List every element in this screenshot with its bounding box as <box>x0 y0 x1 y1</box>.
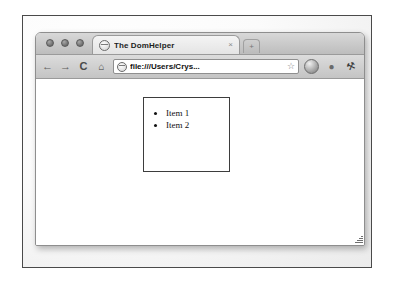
address-bar-url: file:///Users/Crys... <box>130 62 284 71</box>
tab-title: The DomHelper <box>114 41 222 50</box>
resize-grip[interactable] <box>354 235 363 244</box>
new-tab-button[interactable]: + <box>243 39 260 53</box>
figure-frame: The DomHelper × + ← → C ⌂ file:///Users/… <box>22 15 372 268</box>
globe-icon <box>99 40 110 51</box>
window-zoom-button[interactable] <box>76 39 84 47</box>
wrench-icon[interactable]: ⚒ <box>342 57 361 76</box>
back-arrow-icon[interactable]: ← <box>41 61 54 72</box>
globe-icon <box>117 62 127 72</box>
bookmark-star-icon[interactable]: ☆ <box>287 62 295 71</box>
forward-arrow-icon[interactable]: → <box>59 61 72 72</box>
address-bar[interactable]: file:///Users/Crys... ☆ <box>113 59 299 74</box>
browser-window: The DomHelper × + ← → C ⌂ file:///Users/… <box>35 32 365 246</box>
list-item: Item 2 <box>166 119 229 131</box>
window-minimize-button[interactable] <box>61 39 69 47</box>
browser-toolbar: ← → C ⌂ file:///Users/Crys... ☆ ● ⚒ <box>36 55 364 79</box>
home-icon[interactable]: ⌂ <box>95 62 108 72</box>
window-close-button[interactable] <box>46 39 54 47</box>
lightbulb-icon[interactable]: ● <box>324 59 339 74</box>
close-icon[interactable]: × <box>226 41 235 49</box>
page-viewport: Item 1 Item 2 <box>36 79 364 245</box>
item-list: Item 1 Item 2 <box>144 98 229 131</box>
window-controls <box>42 32 92 54</box>
tab-strip: The DomHelper × + <box>36 33 364 55</box>
bordered-content-box: Item 1 Item 2 <box>143 97 230 172</box>
reload-icon[interactable]: C <box>77 61 90 72</box>
page-menu-icon[interactable] <box>304 59 319 74</box>
browser-tab[interactable]: The DomHelper × <box>92 35 240 54</box>
list-item: Item 1 <box>166 107 229 119</box>
